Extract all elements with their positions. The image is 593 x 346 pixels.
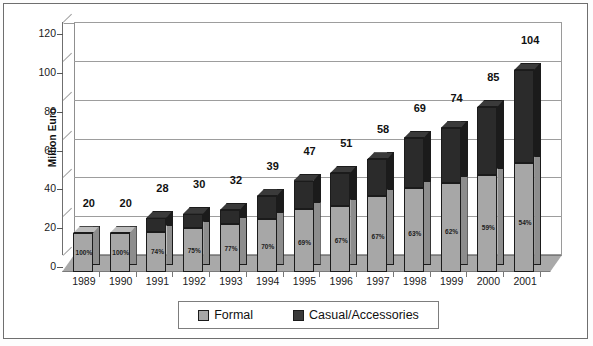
- y-tick-label: 40: [26, 182, 56, 194]
- bar-side-formal: [93, 226, 100, 265]
- y-tick-label: 60: [26, 144, 56, 156]
- bar-side-casual: [497, 100, 504, 168]
- bar-percent-label: 67%: [368, 233, 388, 240]
- legend-label-formal: Formal: [214, 308, 253, 322]
- chart-legend: Formal Casual/Accessories: [178, 301, 439, 329]
- y-tick-mark: [57, 267, 63, 268]
- y-tick-label: 20: [26, 221, 56, 233]
- x-axis-label-1991: 1991: [136, 275, 178, 287]
- bar-side-formal: [424, 181, 431, 265]
- bar-percent-label: 70%: [258, 243, 278, 250]
- x-axis-label-1996: 1996: [320, 275, 362, 287]
- bar-side-formal: [350, 199, 357, 265]
- bar-total-label: 85: [476, 71, 510, 83]
- bar-total-label: 58: [366, 123, 400, 135]
- bar-percent-label: 69%: [295, 239, 315, 246]
- y-tick-mark: [57, 112, 63, 113]
- x-axis-label-1992: 1992: [173, 275, 215, 287]
- bar-1992: 75%: [183, 39, 203, 272]
- gridline: [74, 22, 562, 23]
- x-axis-label-1989: 1989: [63, 275, 105, 287]
- y-axis-title: Million Euro: [47, 78, 58, 198]
- bar-segment-casual: [294, 181, 314, 209]
- bar-1991: 74%: [146, 39, 166, 272]
- bar-percent-label: 54%: [515, 219, 535, 226]
- bar-percent-label: 100%: [111, 249, 131, 256]
- bar-side-casual: [461, 121, 468, 176]
- bar-percent-label: 59%: [478, 224, 498, 231]
- bar-segment-casual: [257, 196, 277, 219]
- bar-percent-label: 74%: [147, 248, 167, 255]
- chart-page: Million Euro 020406080100120 100%20100%2…: [0, 0, 593, 346]
- bar-total-label: 32: [219, 174, 253, 186]
- bar-segment-casual: [367, 159, 387, 196]
- plot-area: 020406080100120 100%20100%2074%2875%3077…: [62, 22, 562, 272]
- y-tick-label: 100: [26, 66, 56, 78]
- bar-total-label: 69: [403, 102, 437, 114]
- bar-total-label: 30: [182, 178, 216, 190]
- bar-total-label: 39: [256, 160, 290, 172]
- y-tick-mark: [57, 151, 63, 152]
- bar-percent-label: 75%: [184, 247, 204, 254]
- bar-side-formal: [203, 221, 210, 265]
- bar-total-label: 47: [293, 145, 327, 157]
- bar-percent-label: 63%: [405, 230, 425, 237]
- bar-side-formal: [461, 176, 468, 265]
- y-tick-mark: [57, 189, 63, 190]
- bar-total-label: 28: [145, 182, 179, 194]
- y-tick-label: 80: [26, 105, 56, 117]
- bar-percent-label: 67%: [331, 237, 351, 244]
- bar-1989: 100%: [73, 39, 93, 272]
- bar-1990: 100%: [110, 39, 130, 272]
- x-axis-label-2001: 2001: [504, 275, 546, 287]
- bar-segment-casual: [441, 128, 461, 183]
- x-axis-label-1997: 1997: [357, 275, 399, 287]
- y-tick-label: 120: [26, 27, 56, 39]
- formal-swatch-icon: [198, 310, 209, 321]
- y-tick-mark: [57, 228, 63, 229]
- bar-side-formal: [277, 212, 284, 265]
- bar-side-formal: [497, 168, 504, 265]
- bar-side-formal: [240, 217, 247, 265]
- bar-1998: 63%: [404, 39, 424, 272]
- bar-segment-casual: [146, 218, 166, 232]
- bar-side-formal: [387, 189, 394, 265]
- bar-percent-label: 100%: [74, 249, 94, 256]
- bar-segment-casual: [514, 70, 534, 163]
- bar-side-casual: [424, 131, 431, 181]
- bar-segment-casual: [183, 214, 203, 229]
- x-axis-label-2000: 2000: [467, 275, 509, 287]
- bar-side-formal: [314, 202, 321, 265]
- y-tick-label: 0: [26, 260, 56, 272]
- x-axis-label-1990: 1990: [100, 275, 142, 287]
- legend-item-casual: Casual/Accessories: [293, 308, 419, 322]
- bar-total-label: 20: [109, 197, 143, 209]
- bar-segment-casual: [404, 138, 424, 188]
- bar-side-formal: [534, 156, 541, 265]
- legend-item-formal: Formal: [198, 308, 253, 322]
- x-axis-label-1993: 1993: [210, 275, 252, 287]
- bar-1997: 67%: [367, 39, 387, 272]
- y-tick-mark: [57, 73, 63, 74]
- bar-percent-label: 77%: [221, 245, 241, 252]
- bar-side-formal: [130, 226, 137, 265]
- bar-2001: 54%: [514, 39, 534, 272]
- bar-segment-formal: [514, 163, 534, 272]
- bar-side-casual: [534, 63, 541, 156]
- x-axis-label-1998: 1998: [394, 275, 436, 287]
- bar-percent-label: 62%: [442, 228, 462, 235]
- casual-swatch-icon: [293, 310, 304, 321]
- x-axis-label-1994: 1994: [247, 275, 289, 287]
- y-tick-mark: [57, 34, 63, 35]
- bar-total-label: 20: [72, 197, 106, 209]
- bar-total-label: 74: [440, 92, 474, 104]
- x-axis-label-1995: 1995: [284, 275, 326, 287]
- legend-label-casual: Casual/Accessories: [309, 308, 419, 322]
- bar-1994: 70%: [257, 39, 277, 272]
- bar-1999: 62%: [441, 39, 461, 272]
- bar-segment-casual: [330, 173, 350, 206]
- bar-segment-casual: [477, 107, 497, 175]
- bar-side-formal: [166, 225, 173, 265]
- bar-1996: 67%: [330, 39, 350, 272]
- bar-1993: 77%: [220, 39, 240, 272]
